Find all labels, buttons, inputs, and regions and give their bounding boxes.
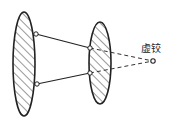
virtual-hinge-icon <box>151 59 155 63</box>
mechanism-diagram: 虚铰 <box>0 0 177 124</box>
upper-link <box>36 34 90 48</box>
left-bottom-hinge-icon <box>35 82 39 86</box>
right-rigid-body <box>89 22 111 104</box>
diagram-svg <box>0 0 177 124</box>
virtual-hinge-label: 虚铰 <box>141 44 161 54</box>
right-bottom-hinge-icon <box>88 71 92 75</box>
left-rigid-body <box>13 12 35 116</box>
right-top-hinge-icon <box>88 46 92 50</box>
left-top-hinge-icon <box>34 32 38 36</box>
lower-link <box>37 73 90 84</box>
